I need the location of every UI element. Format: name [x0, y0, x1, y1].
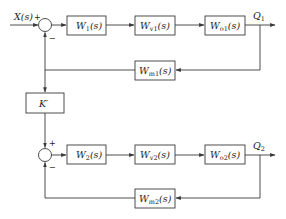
block-w2: W2(s) — [67, 145, 106, 164]
block-wm2: Wm2(s) — [135, 189, 175, 208]
block-k-prime: K′ — [26, 93, 64, 113]
block-wv2: Wv2(s) — [135, 145, 175, 164]
feedback-wire-2b — [45, 163, 135, 199]
summer-1-minus-sign: − — [49, 34, 56, 43]
loop-2: + − W2(s) Wv2(s) Wo2(s) Q2 Wm2(s) — [39, 139, 276, 208]
summing-junction-1 — [39, 19, 52, 32]
summer-2-plus-sign: + — [49, 139, 56, 148]
coupling: K′ — [26, 70, 64, 148]
summing-junction-2 — [39, 149, 52, 162]
block-wv1: Wv1(s) — [135, 16, 175, 35]
block-w1: W1(s) — [67, 16, 106, 35]
loop-1: X(s)+ − W1(s) Wv1(s) Wo1(s) Q1 — [10, 10, 275, 80]
block-wo2: Wo2(s) — [205, 145, 245, 164]
svg-text:K′: K′ — [38, 98, 49, 109]
block-diagram: X(s)+ − W1(s) Wv1(s) Wo1(s) Q1 — [0, 0, 286, 219]
output-label-q1: Q1 — [253, 10, 265, 23]
block-wo1: Wo1(s) — [205, 16, 245, 35]
summer-2-minus-sign: − — [49, 163, 56, 172]
input-label: X(s)+ — [13, 11, 41, 22]
block-wm1: Wm1(s) — [135, 61, 175, 80]
output-label-q2: Q2 — [253, 140, 265, 153]
